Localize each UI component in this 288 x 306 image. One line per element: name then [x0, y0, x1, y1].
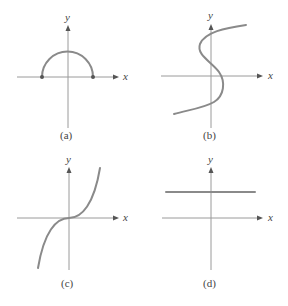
x-label: x	[267, 69, 273, 81]
x-axis-arrow-icon	[257, 216, 263, 221]
caption-d: (d)	[203, 277, 216, 290]
y-label: y	[64, 11, 70, 23]
x-label: x	[122, 70, 128, 82]
endpoint-right	[91, 75, 95, 79]
y-axis-arrow-icon	[209, 24, 214, 30]
x-axis-arrow-icon	[257, 74, 263, 79]
panel-d: x y (d)	[162, 153, 273, 290]
caption-b: (b)	[203, 129, 216, 142]
y-axis-arrow-icon	[209, 167, 214, 173]
y-axis-arrow-icon	[67, 167, 72, 173]
panel-b: x y (b)	[161, 9, 273, 142]
x-axis-arrow-icon	[113, 75, 119, 80]
s-curve	[174, 25, 246, 114]
endpoint-left	[40, 75, 44, 79]
y-label: y	[65, 153, 71, 165]
caption-c: (c)	[61, 277, 74, 290]
x-axis-arrow-icon	[113, 216, 119, 221]
panel-c: x y (c)	[17, 153, 128, 290]
caption-a: (a)	[60, 129, 73, 142]
y-axis-arrow-icon	[66, 25, 71, 31]
x-label: x	[267, 211, 273, 223]
y-label: y	[207, 153, 213, 165]
panel-a: x y (a)	[17, 11, 128, 142]
y-label: y	[207, 9, 213, 21]
x-label: x	[122, 211, 128, 223]
figure-canvas: x y (a) x y (b) x y (c) x y (d)	[0, 0, 288, 306]
